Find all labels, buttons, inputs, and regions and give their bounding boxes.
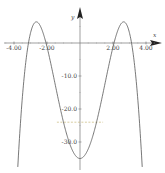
- y-ticks: -10.0-20.0-30.0: [62, 27, 82, 159]
- x-tick-label: 4.00: [139, 44, 153, 51]
- x-tick-label: -4.00: [6, 44, 22, 51]
- axes: x y: [4, 7, 162, 170]
- y-axis-label: y: [70, 13, 75, 21]
- x-axis-label: x: [153, 31, 157, 38]
- y-tick-label: -10.0: [62, 72, 78, 79]
- y-tick-label: -20.0: [62, 105, 78, 112]
- function-plot: x y -4.00-2.002.004.00 -10.0-20.0-30.0: [0, 0, 165, 173]
